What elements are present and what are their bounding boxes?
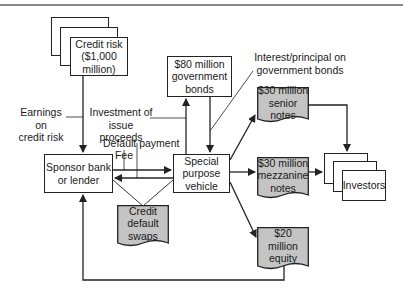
equity-label: $20 million equity: [257, 227, 309, 265]
fee-label: Fee: [114, 149, 134, 162]
default-payment-label: Default payment: [103, 137, 175, 150]
cds-label: Credit default swaps: [117, 205, 169, 242]
sponsor-bank-box: Sponsor bank or lender: [44, 154, 113, 193]
mezzanine-notes-label: $30 million mezzanine notes: [257, 157, 309, 194]
credit-risk-box: Credit risk ($1,000 million): [70, 37, 128, 76]
senior-notes-label: $30 million senior notes: [257, 87, 309, 119]
equity-doc: $20 million equity: [257, 227, 309, 270]
special-purpose-vehicle-box: Special purpose vehicle: [173, 154, 230, 193]
arrow-senior-to-investors: [308, 105, 347, 151]
investors-box: Investors: [342, 170, 386, 201]
mezzanine-notes-doc: $30 million mezzanine notes: [257, 157, 309, 199]
earnings-label: Earnings on credit risk: [14, 106, 68, 144]
senior-notes-doc: $30 million senior notes: [257, 87, 309, 123]
credit-default-swaps-doc: Credit default swaps: [117, 205, 169, 247]
government-bonds-box: $80 million government bonds: [167, 56, 232, 97]
arrow-spv-to-senior: [230, 115, 255, 160]
arrow-equity-to-sponsor: [83, 195, 284, 280]
arrow-spv-to-equity: [230, 182, 256, 237]
interest-principal-label: Interest/principal on government bonds: [245, 51, 355, 76]
